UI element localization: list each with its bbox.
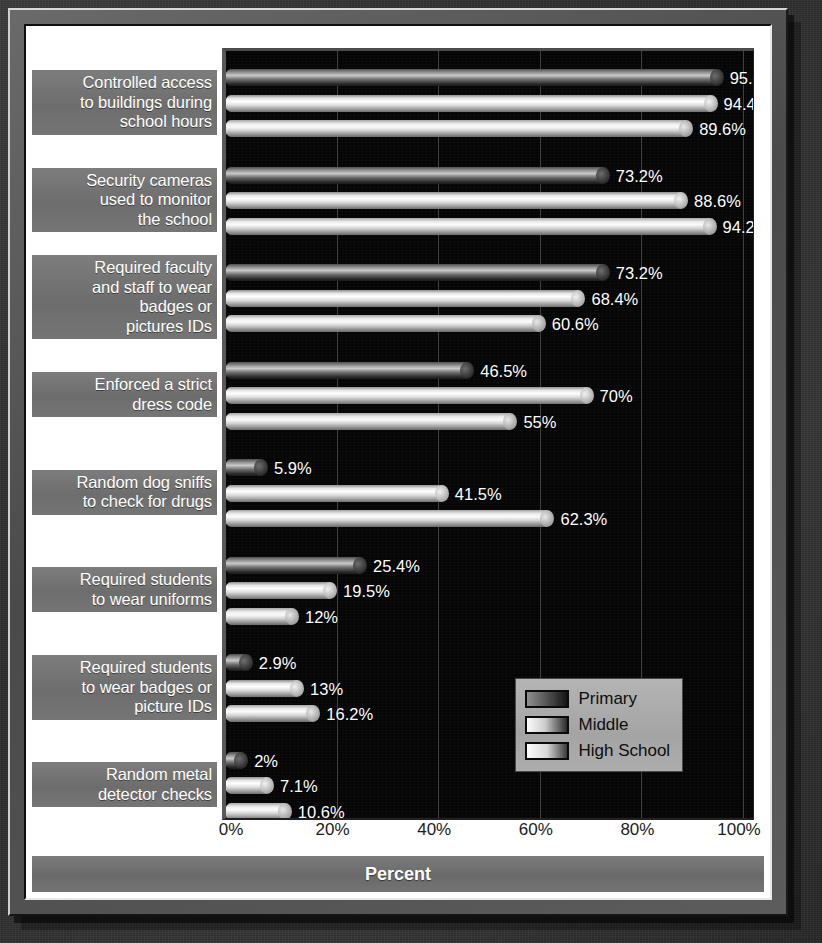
- bar-value-label: 88.6%: [694, 193, 741, 210]
- category-label-line: pictures IDs: [126, 317, 212, 337]
- category-label: Random dog sniffsto check for drugs: [32, 470, 217, 515]
- bar-body: [231, 95, 711, 112]
- bar-cap-right: [571, 290, 585, 307]
- category-label: Random metaldetector checks: [32, 762, 217, 807]
- bar-cap-right: [532, 315, 546, 332]
- bar-primary: [231, 459, 268, 476]
- bar-cap-right: [460, 362, 474, 379]
- category-label-line: Random dog sniffs: [76, 473, 212, 493]
- bar-body: [231, 264, 603, 281]
- bar-body: [231, 582, 330, 599]
- gridline: [743, 51, 744, 818]
- bar-value-label: 68.4%: [591, 291, 638, 308]
- bar-cap-right: [703, 218, 717, 235]
- bar-body: [231, 290, 578, 307]
- x-tick-label: 40%: [417, 820, 451, 840]
- bar-primary: [231, 264, 610, 281]
- bar-body: [231, 680, 297, 697]
- bar-middle: [231, 777, 274, 794]
- bar-value-label: 95.6%: [730, 70, 754, 87]
- category-label: Required facultyand staff to wearbadges …: [32, 255, 217, 339]
- category-label-line: Required students: [80, 570, 212, 590]
- x-tick-label: 20%: [316, 820, 350, 840]
- x-axis-title: Percent: [32, 856, 764, 892]
- bar-high-school: [231, 608, 299, 625]
- middle-swatch: [525, 716, 569, 734]
- category-label-line: Required faculty: [94, 258, 212, 278]
- category-label-column: Controlled accessto buildings duringscho…: [32, 30, 217, 820]
- bar-body: [231, 315, 539, 332]
- bar-body: [231, 413, 510, 430]
- bar-cap-right: [596, 167, 610, 184]
- bar-primary: [231, 69, 724, 86]
- bar-value-label: 73.2%: [616, 265, 663, 282]
- category-label-line: to wear badges or: [82, 678, 212, 698]
- bar-cap-right: [503, 413, 517, 430]
- bar-value-label: 5.9%: [274, 460, 312, 477]
- bar-high-school: [231, 218, 717, 235]
- bar-body: [231, 557, 360, 574]
- chart-frame-inner: Controlled accessto buildings duringscho…: [24, 24, 772, 900]
- bar-body: [231, 167, 603, 184]
- high-school-swatch: [525, 742, 569, 760]
- bar-body: [231, 192, 681, 209]
- bar-body: [231, 69, 717, 86]
- bar-body: [231, 608, 292, 625]
- bar-middle: [231, 290, 585, 307]
- legend-label: Middle: [578, 715, 628, 735]
- legend-item-high-school: High School: [525, 738, 670, 764]
- bar-value-label: 55%: [523, 414, 556, 431]
- bar-primary: [231, 654, 253, 671]
- bar-high-school: [231, 413, 517, 430]
- category-label-line: Enforced a strict: [94, 375, 212, 395]
- bar-cap-right: [704, 95, 718, 112]
- bar-body: [231, 803, 285, 820]
- category-label-line: to check for drugs: [83, 492, 212, 512]
- bar-body: [231, 387, 587, 404]
- category-label: Controlled accessto buildings duringscho…: [32, 70, 217, 135]
- bar-cap-right: [323, 582, 337, 599]
- bar-cap-right: [435, 485, 449, 502]
- category-label-line: Random metal: [106, 765, 212, 785]
- bar-value-label: 73.2%: [616, 168, 663, 185]
- bar-value-label: 60.6%: [552, 316, 599, 333]
- category-label-line: and staff to wear: [92, 278, 212, 298]
- bar-primary: [231, 752, 248, 769]
- bar-cap-right: [234, 752, 248, 769]
- bar-value-label: 94.4%: [724, 96, 754, 113]
- x-tick-label: 60%: [519, 820, 553, 840]
- bar-cap-right: [679, 120, 693, 137]
- category-label-line: to buildings during: [80, 93, 212, 113]
- bar-value-label: 16.2%: [326, 706, 373, 723]
- bar-cap-right: [306, 705, 320, 722]
- x-tick-label: 80%: [620, 820, 654, 840]
- bar-cap-right: [260, 777, 274, 794]
- bar-primary: [231, 167, 610, 184]
- bar-value-label: 89.6%: [699, 121, 746, 138]
- chart-frame-outer: Controlled accessto buildings duringscho…: [8, 8, 788, 916]
- category-label-line: to wear uniforms: [92, 590, 212, 610]
- bar-primary: [231, 557, 367, 574]
- x-axis-ticks: 0%20%40%60%80%100%: [222, 820, 754, 850]
- bar-cap-right: [285, 608, 299, 625]
- bar-middle: [231, 387, 594, 404]
- bar-body: [231, 705, 313, 722]
- bar-value-label: 2%: [254, 753, 278, 770]
- category-label-line: badges or: [140, 297, 213, 317]
- bar-value-label: 94.2%: [723, 219, 754, 236]
- bar-cap-right: [580, 387, 594, 404]
- bar-body: [231, 510, 547, 527]
- bar-cap-right: [254, 459, 268, 476]
- bar-cap-right: [239, 654, 253, 671]
- bar-middle: [231, 680, 304, 697]
- category-label-line: Security cameras: [86, 171, 212, 191]
- primary-swatch: [525, 690, 569, 708]
- bar-cap-right: [290, 680, 304, 697]
- bar-cap-right: [353, 557, 367, 574]
- bar-value-label: 10.6%: [298, 804, 345, 821]
- bar-value-label: 2.9%: [259, 655, 297, 672]
- bar-value-label: 46.5%: [480, 363, 527, 380]
- legend-label: High School: [578, 741, 670, 761]
- bar-body: [231, 362, 467, 379]
- legend-item-primary: Primary: [525, 686, 670, 712]
